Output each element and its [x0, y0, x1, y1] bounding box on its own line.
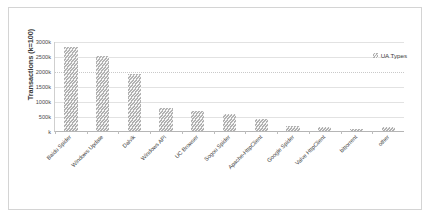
- y-axis-tick-label: k: [25, 129, 51, 135]
- x-axis-tick-label: Google Spider: [265, 134, 294, 163]
- bar-slot: [277, 42, 309, 131]
- bar-slot: [87, 42, 119, 131]
- y-axis-tick-label: 2000k: [25, 69, 51, 75]
- bar[interactable]: [382, 127, 395, 131]
- bar[interactable]: [255, 119, 268, 131]
- x-axis-tick-label: bittorrent: [339, 134, 359, 154]
- bar-series: [55, 42, 404, 131]
- x-axis-tick-label: Windows Update: [70, 134, 104, 168]
- bar[interactable]: [286, 126, 299, 131]
- bar-slot: [150, 42, 182, 131]
- bar-slot: [118, 42, 150, 131]
- bar-slot: [245, 42, 277, 131]
- y-axis-tick-labels: 3000k2500k2000k1500k1000k500kk: [25, 42, 51, 132]
- x-axis-tick-label: Sogou Spider: [203, 134, 231, 162]
- bar[interactable]: [96, 56, 109, 131]
- bar[interactable]: [191, 111, 204, 131]
- x-axis-tick-labels: Baidu SpiderWindows UpdateDalvikWindows …: [54, 134, 404, 194]
- x-axis-tick-label: UC Browser: [174, 134, 200, 160]
- bar[interactable]: [223, 114, 236, 131]
- plot-area: [54, 42, 404, 132]
- chart-plot-wrapper: Transactions (k=100) 3000k2500k2000k1500…: [9, 8, 421, 209]
- legend-item-label: UA Types: [381, 52, 407, 59]
- y-axis-tick-label: 1000k: [25, 99, 51, 105]
- bar-slot: [214, 42, 246, 131]
- y-axis-tick-label: 500k: [25, 114, 51, 120]
- bar[interactable]: [128, 74, 141, 131]
- legend-swatch-icon: [373, 53, 378, 58]
- chart-legend: UA Types: [373, 52, 407, 59]
- bar[interactable]: [159, 108, 172, 131]
- bar[interactable]: [318, 127, 331, 132]
- bar-slot: [309, 42, 341, 131]
- y-axis-tick-label: 1500k: [25, 84, 51, 90]
- bar-slot: [182, 42, 214, 131]
- bar[interactable]: [64, 47, 77, 131]
- y-axis-tick-label: 2500k: [25, 54, 51, 60]
- x-axis-tick-label: Valve HttpClient: [294, 134, 326, 166]
- x-axis-tick-label: Dalvik: [121, 134, 136, 149]
- bar[interactable]: [350, 129, 363, 131]
- x-axis-tick-label: Baidu Spider: [45, 134, 72, 161]
- x-axis-tick-label: other: [377, 134, 390, 147]
- y-axis-tick-label: 3000k: [25, 39, 51, 45]
- bar-slot: [341, 42, 373, 131]
- chart-frame: Transactions (k=100) 3000k2500k2000k1500…: [8, 7, 422, 210]
- bar-slot: [55, 42, 87, 131]
- x-axis-tick-label: Apache-HttpClient: [227, 134, 263, 170]
- x-axis-tick-label: Windows API: [140, 134, 168, 162]
